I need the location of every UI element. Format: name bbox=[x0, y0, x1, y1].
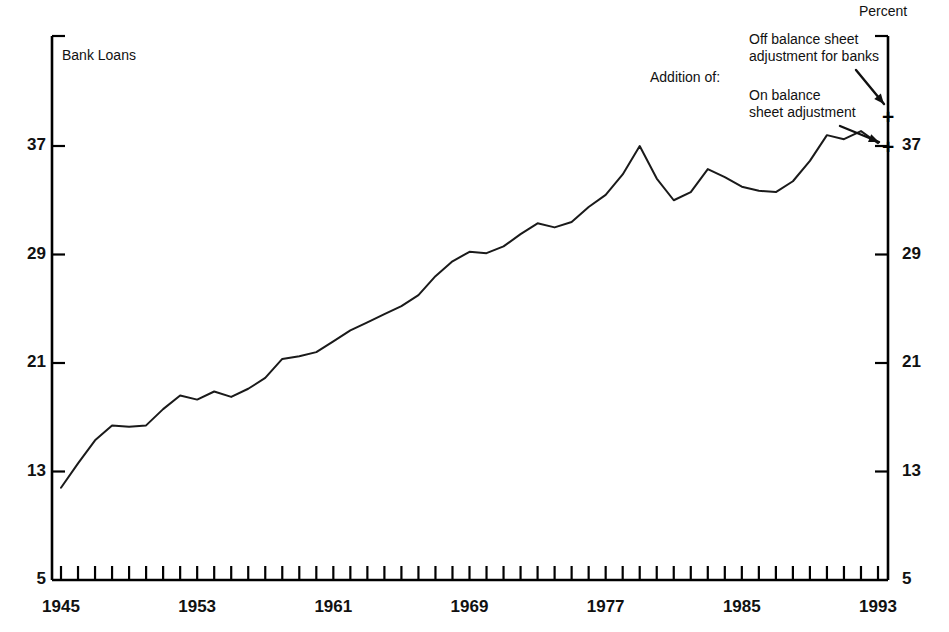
x-tick-label: 1945 bbox=[37, 597, 85, 617]
y-tick-label-left: 21 bbox=[20, 352, 46, 372]
x-tick-label: 1953 bbox=[173, 597, 221, 617]
x-tick-label: 1961 bbox=[309, 597, 357, 617]
annotation-intro-label: Addition of: bbox=[650, 69, 720, 86]
y-tick-label-left: 29 bbox=[20, 244, 46, 264]
y-tick-label-right: 37 bbox=[902, 135, 921, 155]
y-tick-label-right: 21 bbox=[902, 352, 921, 372]
y-tick-label-right: 13 bbox=[902, 461, 921, 481]
x-tick-label: 1977 bbox=[582, 597, 630, 617]
y-tick-label-right: 29 bbox=[902, 244, 921, 264]
y-tick-label-right: 5 bbox=[902, 569, 911, 589]
x-tick-label: 1969 bbox=[446, 597, 494, 617]
annotation-on-balance-label: On balance sheet adjustment bbox=[749, 87, 856, 120]
on-balance-plus-marker: + bbox=[882, 136, 894, 157]
y-tick-label-left: 13 bbox=[20, 461, 46, 481]
y-axis-unit-label: Percent bbox=[859, 3, 907, 20]
x-tick-label: 1993 bbox=[854, 597, 902, 617]
chart-series bbox=[61, 131, 878, 488]
arrow-on-balance bbox=[840, 126, 879, 142]
arrow-off-balance bbox=[856, 70, 884, 104]
chart-figure: 513212937 513212937 19451953196119691977… bbox=[0, 0, 949, 632]
y-tick-label-left: 5 bbox=[20, 569, 46, 589]
x-tick-label: 1985 bbox=[718, 597, 766, 617]
series-line-bank-loans bbox=[61, 131, 878, 488]
annotation-off-balance-label: Off balance sheet adjustment for banks bbox=[749, 31, 879, 64]
y-tick-label-left: 37 bbox=[20, 135, 46, 155]
off-balance-plus-marker: + bbox=[882, 106, 894, 127]
series-title-label: Bank Loans bbox=[62, 47, 136, 64]
